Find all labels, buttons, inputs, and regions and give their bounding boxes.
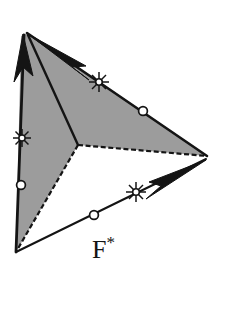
figure-canvas: F* — [0, 0, 227, 309]
lower-diagonal-arrow-head — [146, 160, 206, 199]
circle-marker-upper — [139, 107, 148, 116]
circle-marker-left — [17, 181, 26, 190]
asterisk-marker-left — [13, 129, 31, 147]
shaded-region — [16, 33, 207, 252]
asterisk-marker-upper — [89, 72, 109, 92]
f-star-label-base: F — [92, 235, 106, 264]
asterisk-marker-lower — [126, 182, 146, 202]
f-star-label-superscript: * — [106, 233, 115, 252]
f-star-label: F* — [92, 237, 115, 263]
circle-marker-lower — [90, 211, 99, 220]
